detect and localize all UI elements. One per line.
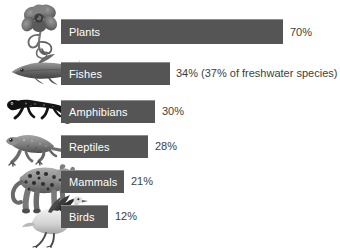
flower-illustration [16,1,66,61]
bar-value-plants: 70% [290,27,312,38]
bar-label-birds: Birds [61,212,95,223]
bar-value-mammals: 21% [131,176,153,187]
bar-label-mammals: Mammals [61,177,117,188]
bar-value-reptiles: 28% [155,141,177,152]
bar-fishes[interactable]: Fishes [61,62,170,85]
bar-label-reptiles: Reptiles [61,142,110,153]
bar-reptiles[interactable]: Reptiles [61,135,148,158]
bar-value-birds: 12% [115,211,137,222]
bar-label-fishes: Fishes [61,69,102,80]
bar-amphibians[interactable]: Amphibians [61,100,155,123]
species-percentage-bar-chart: Plants 70% [0,0,340,248]
bar-label-amphibians: Amphibians [61,107,127,118]
bar-mammals[interactable]: Mammals [61,170,124,193]
bar-value-fishes: 34% (37% of freshwater species) [176,68,337,79]
bar-label-plants: Plants [61,27,100,38]
bar-value-amphibians: 30% [162,106,184,117]
bar-birds[interactable]: Birds [61,205,108,228]
bar-plants[interactable]: Plants [61,19,283,44]
